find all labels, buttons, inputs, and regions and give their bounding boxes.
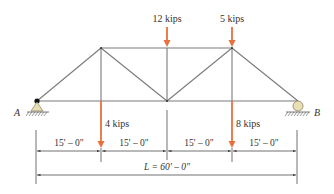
panel-dimension-2: 15' – 0" — [119, 138, 148, 148]
roller-support-B — [285, 101, 310, 116]
diagonal-left — [101, 48, 167, 101]
panel-dimension-4: 15' – 0" — [249, 138, 278, 148]
node-top-left — [100, 47, 102, 49]
load-arrow-8kips — [229, 101, 236, 148]
node-bottom-mid — [166, 100, 168, 102]
panel-dimension-1: 15' – 0" — [54, 138, 83, 148]
end-diagonal-left — [37, 48, 101, 101]
load-arrow-5kips — [229, 27, 236, 47]
diagonal-right — [167, 48, 232, 101]
support-label-B: B — [314, 107, 320, 118]
panel-dimension-3: 15' – 0" — [184, 138, 213, 148]
overall-dimension-label: L = 60' – 0" — [143, 162, 191, 172]
load-label-5kips: 5 kips — [220, 13, 244, 24]
truss-members — [37, 48, 298, 101]
load-arrow-4kips — [98, 101, 105, 148]
truss-diagram: A B 12 kips 5 kips 4 kips 8 ki — [0, 0, 334, 194]
node-top-right — [231, 47, 233, 49]
load-label-12kips: 12 kips — [152, 13, 181, 24]
support-label-A: A — [13, 107, 21, 118]
load-label-4kips: 4 kips — [105, 118, 129, 129]
load-label-8kips: 8 kips — [236, 118, 260, 129]
pin-support-A — [26, 102, 49, 116]
end-diagonal-right — [232, 48, 298, 101]
load-arrow-12kips — [164, 27, 171, 47]
